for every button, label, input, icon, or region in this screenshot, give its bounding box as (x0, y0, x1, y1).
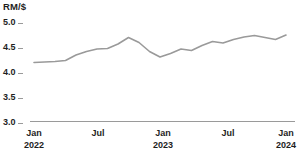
x-axis-tick-year: 2023 (153, 140, 173, 152)
series-line-rm-per-usd (34, 35, 286, 63)
x-axis-tick-month: Jan (24, 128, 44, 140)
plot-area (0, 0, 300, 159)
x-axis-tick-year: 2022 (24, 140, 44, 152)
x-axis-tick-month: Jan (276, 128, 296, 140)
x-axis-tick-month: Jan (153, 128, 173, 140)
x-axis-tick-jul-2022: Jul (91, 128, 104, 140)
x-axis-tick-jul-2023: Jul (221, 128, 234, 140)
x-axis-tick-jan-2024: Jan 2024 (276, 128, 296, 151)
x-axis-tick-jan-2022: Jan 2022 (24, 128, 44, 151)
x-axis-tick-jan-2023: Jan 2023 (153, 128, 173, 151)
x-axis-tick-year: 2024 (276, 140, 296, 152)
exchange-rate-line-chart: RM/$ 5.0 4.5 4.0 3.5 3.0 Jan 2022 Jul Ja… (0, 0, 300, 159)
x-axis-tick-month: Jul (221, 128, 234, 140)
x-axis-tick-month: Jul (91, 128, 104, 140)
